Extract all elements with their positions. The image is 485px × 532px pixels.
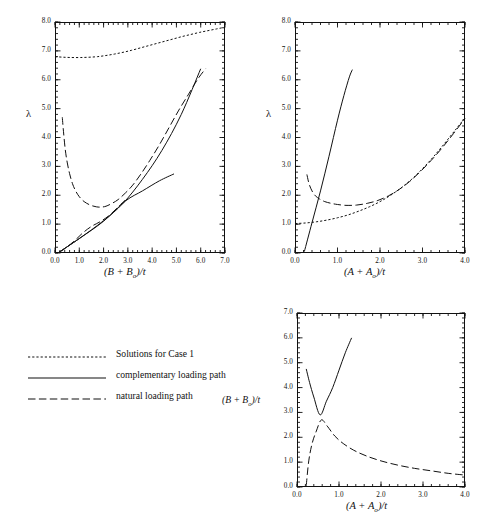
xtick-label: 4.0 [453, 257, 477, 265]
ytick-label: 5.0 [29, 104, 51, 112]
ytick-label: 7.0 [29, 46, 51, 54]
legend-complementary-loading-path: complementary loading path [28, 369, 228, 385]
series-curve [306, 338, 351, 415]
xtick-label: 3.0 [116, 257, 140, 265]
series-curve [307, 118, 465, 205]
curves-top-left [55, 27, 225, 252]
series-curve [59, 174, 174, 253]
xtick-label: 2.0 [369, 491, 393, 499]
xtick-label: 3.0 [411, 491, 435, 499]
xtick-label: 1.0 [67, 257, 91, 265]
panel-top-left: 0.01.02.03.04.05.06.07.00.01.02.03.04.05… [55, 22, 225, 253]
legend: Solutions for Case 1complementary loadin… [28, 348, 228, 404]
legend-natural-loading-path: natural loading path [28, 390, 228, 406]
tick-marks [295, 22, 465, 253]
ytick-label: 7.0 [271, 308, 293, 316]
curves-bottom-right [306, 338, 465, 486]
ytick-label: 2.0 [271, 432, 293, 440]
ytick-label: 4.0 [29, 133, 51, 141]
ytick-label: 1.0 [269, 219, 291, 227]
xtick-label: 1.0 [327, 491, 351, 499]
legend-label: Solutions for Case 1 [116, 348, 194, 359]
legend-line-sample [28, 355, 106, 357]
xtick-label: 3.0 [411, 257, 435, 265]
ytick-label: 1.0 [29, 219, 51, 227]
ytick-label: 4.0 [271, 383, 293, 391]
xtick-label: 0.0 [43, 257, 67, 265]
ytick-label: 2.0 [29, 190, 51, 198]
ytick-label: 0.0 [29, 248, 51, 256]
xaxis-title-top-left: (B + Bo)/t [104, 266, 146, 280]
xaxis-title-bottom-right: (A + Ao)/t [346, 500, 387, 514]
ytick-label: 1.0 [271, 457, 293, 465]
xtick-label: 2.0 [92, 257, 116, 265]
series-curve [59, 200, 125, 253]
ytick-label: 3.0 [271, 407, 293, 415]
xtick-label: 4.0 [453, 491, 477, 499]
series-curve [295, 118, 465, 224]
plot-area-top-right [295, 22, 465, 253]
xtick-label: 5.0 [164, 257, 188, 265]
legend-line-sample [28, 397, 106, 399]
legend-line-sample [28, 376, 106, 378]
legend-label: natural loading path [116, 390, 193, 401]
ytick-label: 5.0 [271, 358, 293, 366]
yaxis-title-top-left: λ [26, 108, 31, 119]
xaxis-title-top-right: (A + Ao)/t [344, 266, 385, 280]
ytick-label: 2.0 [269, 190, 291, 198]
ytick-label: 0.0 [271, 482, 293, 490]
ytick-label: 8.0 [29, 17, 51, 25]
series-curve [62, 69, 205, 207]
ytick-label: 6.0 [29, 75, 51, 83]
ytick-label: 3.0 [269, 161, 291, 169]
xtick-label: 6.0 [189, 257, 213, 265]
panel-top-right: 0.01.02.03.04.00.01.02.03.04.05.06.07.08… [295, 22, 465, 253]
xtick-label: 1.0 [326, 257, 350, 265]
ytick-label: 4.0 [269, 133, 291, 141]
series-curve [55, 27, 225, 57]
ytick-label: 6.0 [269, 75, 291, 83]
ytick-label: 3.0 [29, 161, 51, 169]
ytick-label: 8.0 [269, 17, 291, 25]
ytick-label: 0.0 [269, 248, 291, 256]
xtick-label: 7.0 [213, 257, 237, 265]
xtick-label: 4.0 [140, 257, 164, 265]
xtick-label: 0.0 [283, 257, 307, 265]
legend-solutions-case-1: Solutions for Case 1 [28, 348, 228, 364]
panel-bottom-right: 0.01.02.03.04.00.01.02.03.04.05.06.07.0 [297, 313, 465, 487]
curves-top-right [295, 70, 465, 252]
yaxis-title-top-right: λ [266, 108, 271, 119]
series-curve [59, 69, 201, 253]
legend-label: complementary loading path [116, 369, 226, 380]
xtick-label: 0.0 [285, 491, 309, 499]
plot-area-top-left [55, 22, 225, 253]
series-curve [304, 70, 352, 252]
ytick-label: 7.0 [269, 46, 291, 54]
series-curve [306, 420, 465, 486]
xtick-label: 2.0 [368, 257, 392, 265]
ytick-label: 5.0 [269, 104, 291, 112]
tick-marks [55, 22, 225, 253]
ytick-label: 6.0 [271, 333, 293, 341]
plot-area-bottom-right [297, 313, 465, 487]
